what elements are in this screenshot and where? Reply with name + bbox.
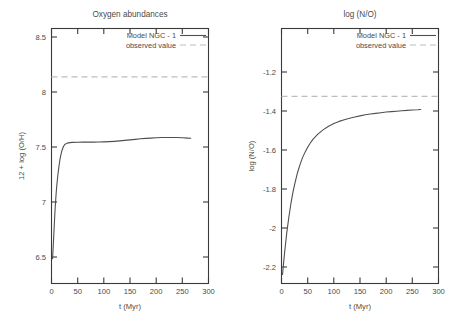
panel-title: log (N/O): [343, 10, 376, 19]
y-axis-label: 12 + log (O/H): [17, 132, 26, 180]
x-tick-label: 50: [303, 287, 311, 296]
legend: Model NGC - 1 observed value: [126, 31, 206, 50]
x-axis-label: t (Myr): [349, 302, 371, 311]
x-tick-label: 0: [279, 287, 283, 296]
legend-observed-label: observed value: [356, 41, 406, 50]
legend-model-label: Model NGC - 1: [127, 31, 176, 40]
y-tick-labels: 6.5 7 7.5 8 8.5: [35, 33, 46, 262]
model-curve: [283, 110, 421, 275]
x-tick-labels: 0 50 100 150 200 250 300: [49, 287, 214, 296]
plot-frame: [282, 29, 439, 284]
y-tick-label: -1.2: [263, 68, 276, 77]
x-tick-label: 250: [406, 287, 419, 296]
y-tick-label: -1.4: [263, 107, 276, 116]
x-tick-label: 100: [97, 287, 110, 296]
x-tick-label: 100: [327, 287, 340, 296]
y-tick-label: 7: [42, 198, 46, 207]
x-tick-label: 50: [73, 287, 81, 296]
x-tick-label: 200: [380, 287, 393, 296]
legend: Model NGC - 1 observed value: [356, 31, 436, 50]
x-tick-label: 150: [354, 287, 367, 296]
x-axis-ticks: [52, 29, 209, 284]
x-tick-labels: 0 50 100 150 200 250 300: [279, 287, 444, 296]
y-tick-label: 8.5: [35, 33, 46, 42]
x-axis-ticks: [282, 29, 439, 284]
x-axis-label: t (Myr): [119, 302, 141, 311]
y-tick-label: 8: [42, 88, 46, 97]
x-tick-label: 200: [150, 287, 163, 296]
panel-title: Oxygen abundances: [92, 10, 167, 19]
legend-observed-label: observed value: [126, 41, 176, 50]
plot-frame: [52, 29, 209, 284]
y-axis-label: log (N/O): [247, 140, 256, 171]
y-tick-label: -1.8: [263, 185, 276, 194]
panel-log-n-over-o: log (N/O) -2.2 -2 -1.8 -1.6: [230, 0, 459, 332]
y-tick-labels: -2.2 -2 -1.8 -1.6 -1.4 -1.2: [263, 68, 276, 272]
model-curve: [53, 137, 191, 258]
oxygen-plot-svg: Oxygen abundances 6.5 7 7.5 8 8.5: [0, 0, 229, 332]
x-tick-label: 300: [432, 287, 445, 296]
figure-container: Oxygen abundances 6.5 7 7.5 8 8.5: [0, 0, 459, 332]
y-tick-label: 7.5: [35, 143, 46, 152]
y-tick-label: -2.2: [263, 263, 276, 272]
x-tick-label: 150: [124, 287, 137, 296]
y-axis-ticks: [282, 72, 439, 267]
x-tick-label: 300: [202, 287, 215, 296]
x-tick-label: 250: [176, 287, 189, 296]
y-tick-label: -1.6: [263, 146, 276, 155]
y-tick-label: 6.5: [35, 253, 46, 262]
legend-model-label: Model NGC - 1: [357, 31, 406, 40]
x-tick-label: 0: [49, 287, 53, 296]
y-tick-label: -2: [269, 224, 276, 233]
y-axis-ticks: [52, 37, 209, 257]
nitrogen-oxygen-plot-svg: log (N/O) -2.2 -2 -1.8 -1.6: [230, 0, 459, 332]
panel-oxygen-abundances: Oxygen abundances 6.5 7 7.5 8 8.5: [0, 0, 229, 332]
